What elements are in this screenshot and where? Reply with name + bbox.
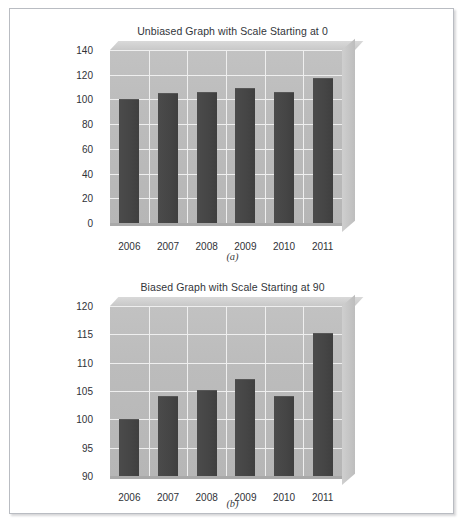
bar-top-edge — [274, 92, 294, 93]
bar-2010 — [274, 92, 294, 223]
figure-frame: Unbiased Graph with Scale Starting at 0 … — [9, 8, 454, 514]
chart-panel-a: Unbiased Graph with Scale Starting at 0 … — [10, 13, 455, 261]
y-axis-tick-label: 20 — [82, 193, 93, 204]
bar-2008 — [197, 390, 217, 476]
bar-top-edge — [197, 390, 217, 391]
bar-top-edge — [235, 88, 255, 89]
bar-2011 — [313, 78, 333, 223]
y-axis-tick-label: 120 — [76, 301, 93, 312]
chart-panel-b: Biased Graph with Scale Starting at 90 9… — [10, 271, 455, 514]
bar-2007 — [158, 93, 178, 223]
bar-top-edge — [313, 333, 333, 334]
y-axis-tick-label: 90 — [82, 471, 93, 482]
y-axis-tick-label: 80 — [82, 119, 93, 130]
bar-2010 — [274, 396, 294, 476]
bar-top-edge — [119, 419, 139, 420]
y-axis-tick-label: 95 — [82, 442, 93, 453]
chart-a-grid-wall — [110, 50, 342, 223]
bar-2006 — [119, 99, 139, 223]
bar-top-edge — [235, 379, 255, 380]
chart-b-title: Biased Graph with Scale Starting at 90 — [10, 281, 455, 293]
y-axis-tick-label: 100 — [76, 94, 93, 105]
bar-2008 — [197, 92, 217, 223]
y-axis-tick-label: 105 — [76, 386, 93, 397]
gridline-vertical — [187, 50, 188, 223]
bar-2007 — [158, 396, 178, 476]
gridline-vertical — [265, 306, 266, 476]
y-axis-tick-label: 140 — [76, 45, 93, 56]
gridline-vertical — [303, 50, 304, 223]
y-axis-tick-label: 40 — [82, 168, 93, 179]
y-axis-tick-label: 120 — [76, 69, 93, 80]
chart-a-title: Unbiased Graph with Scale Starting at 0 — [10, 25, 455, 37]
gridline-vertical — [187, 306, 188, 476]
y-axis-tick-label: 110 — [77, 357, 93, 368]
gridline-vertical — [303, 306, 304, 476]
chart-b-3d-floor — [110, 476, 342, 479]
y-axis-tick-label: 60 — [82, 143, 93, 154]
bar-top-edge — [158, 93, 178, 94]
chart-b-caption: (b) — [10, 498, 455, 509]
gridline-vertical — [149, 306, 150, 476]
gridline-vertical — [226, 50, 227, 223]
y-axis-tick-label: 0 — [87, 218, 93, 229]
chart-b-plot-area — [101, 297, 355, 492]
chart-b-grid-wall — [110, 306, 342, 476]
chart-a-plot-area — [101, 41, 355, 239]
gridline-vertical — [149, 50, 150, 223]
gridline-vertical — [265, 50, 266, 223]
chart-a-3d-top-face — [110, 41, 363, 50]
chart-a-3d-floor — [110, 223, 342, 226]
bar-2011 — [313, 333, 333, 476]
bar-top-edge — [313, 78, 333, 79]
y-axis-tick-label: 115 — [77, 329, 93, 340]
gridline-vertical — [226, 306, 227, 476]
chart-b-3d-top-face — [110, 297, 363, 306]
chart-b-3d-right-face — [342, 295, 355, 485]
chart-a-caption: (a) — [10, 251, 455, 262]
bar-top-edge — [119, 99, 139, 100]
bar-top-edge — [158, 396, 178, 397]
bar-2006 — [119, 419, 139, 476]
chart-a-3d-right-face — [342, 39, 355, 232]
bar-top-edge — [274, 396, 294, 397]
bar-top-edge — [197, 92, 217, 93]
bar-2009 — [235, 379, 255, 476]
bar-2009 — [235, 88, 255, 223]
y-axis-tick-label: 100 — [76, 414, 93, 425]
